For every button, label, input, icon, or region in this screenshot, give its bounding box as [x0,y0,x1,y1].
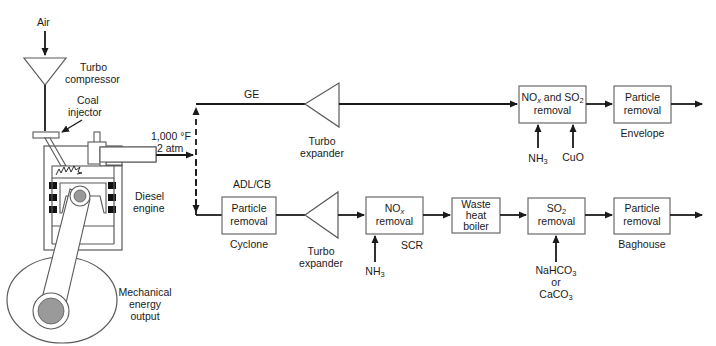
turbo-compressor-icon [24,58,66,85]
injector-label-2: injector [68,106,102,118]
cuo-label: CuO [562,151,584,163]
nh3-label-top: NH3 [528,152,547,166]
injector-label-1: Coal [77,94,99,106]
wrist-pin [74,190,86,202]
nh3-label-bottom: NH3 [365,265,384,279]
engine-label-2: engine [133,202,165,214]
cyclone-box-label-2: removal [230,215,267,227]
air-label: Air [37,16,50,28]
bottom-turbo-expander-icon [305,192,338,238]
top-train-ge: GE Turbo expander NOx and SO2 removal NH… [196,83,702,166]
compressor-label-2: compressor [65,73,120,85]
injector-pointer-arrow [62,120,82,132]
scr-box-label-2: removal [376,215,413,227]
nox-so2-label-2: removal [534,104,571,116]
baghouse-box-label-1: Particle [624,202,659,214]
crank-pin [38,298,64,324]
cyclone-caption: Cyclone [230,238,268,250]
baghouse-box-label-2: removal [623,215,660,227]
baghouse-caption: Baghouse [618,238,665,250]
coal-injector-nozzle [45,138,66,166]
envelope-caption: Envelope [621,127,665,139]
piston-ring-left-2 [49,194,57,201]
nox-so2-label-1: NOx and SO2 [521,91,583,105]
output-label-1: Mechanical [118,286,171,298]
process-flow-diagram: Air Turbo compressor Coal injector [0,0,716,346]
bottom-expander-label-1: Turbo [307,245,334,257]
top-expander-label-2: expander [300,147,344,159]
scr-caption: SCR [401,239,424,251]
exhaust-pressure-label: 2 atm [157,142,184,154]
or-label: or [551,276,561,288]
piston-ring-left-3 [49,206,57,213]
exhaust-temperature-label: 1,000 °F [151,130,191,142]
bottom-expander-label-2: expander [299,257,343,269]
compressor-label-1: Turbo [80,61,107,73]
exhaust-pipe [100,147,156,162]
caco3-label: CaCO3 [539,288,572,302]
engine-label-1: Diesel [135,190,164,202]
bottom-train-adl-cb: ADL/CB Particle removal Cyclone Turbo ex… [196,178,702,302]
ge-label: GE [244,88,259,100]
so2-box-label-2: removal [538,215,575,227]
piston-ring-right-1 [108,182,116,189]
top-particle-label-1: Particle [625,91,660,103]
top-particle-label-2: removal [624,104,661,116]
boiler-label-3: boiler [463,220,489,232]
piston-ring-right-2 [108,194,116,201]
top-expander-label-1: Turbo [308,135,335,147]
output-label-3: output [130,310,159,322]
piston-ring-right-3 [108,206,116,213]
top-turbo-expander-icon [305,83,339,127]
adl-cb-label: ADL/CB [233,178,271,190]
cyclone-box-label-1: Particle [231,202,266,214]
engine-section: Air Turbo compressor Coal injector [7,16,193,343]
output-label-2: energy [129,298,162,310]
coal-injector-plate [33,132,59,138]
piston-ring-left-1 [49,182,57,189]
